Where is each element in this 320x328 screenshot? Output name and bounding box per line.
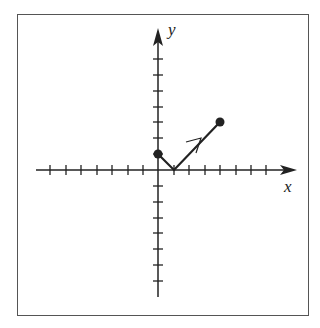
- end-point-dot: [216, 118, 225, 127]
- x-axis-label: x: [284, 177, 292, 197]
- x-axis: [36, 165, 297, 175]
- graph-canvas: [0, 0, 320, 328]
- coordinate-plane-figure: y x: [0, 0, 320, 328]
- start-point-dot: [154, 150, 163, 159]
- graph-path: [154, 118, 225, 171]
- y-axis-label: y: [168, 20, 176, 40]
- y-axis: [153, 28, 163, 297]
